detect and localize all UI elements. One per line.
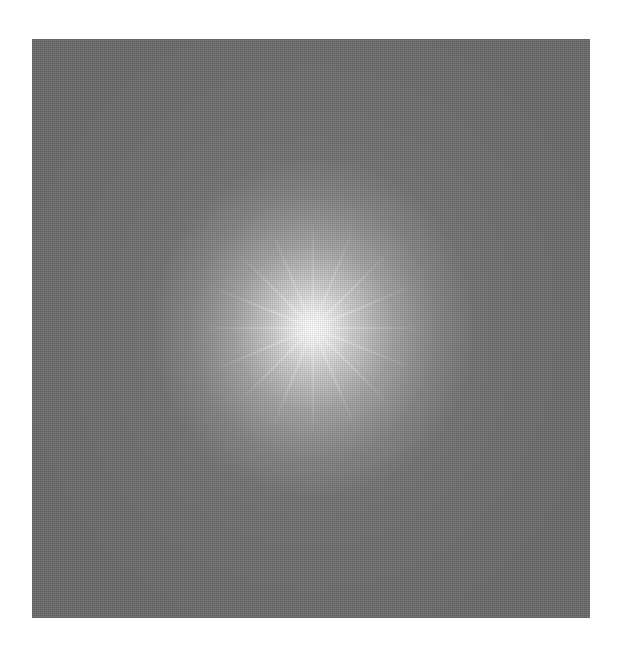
glow-image bbox=[32, 39, 590, 618]
grain-texture bbox=[32, 39, 590, 618]
